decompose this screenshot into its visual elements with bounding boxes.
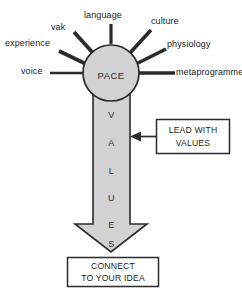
spoke-label-culture: culture [151,17,179,26]
pace-hub-label: PACE [98,70,125,81]
diagram-canvas: PACE V A L U E S LEAD WITH VALUES CONNEC… [0,0,242,290]
callout-line-1: LEAD WITH [169,125,218,135]
values-letter-v: V [108,110,114,120]
values-letter-a: A [108,138,114,148]
spoke-label-experience: experience [5,39,50,48]
outcome-line-2: TO YOUR IDEA [81,273,145,283]
callout-line-2: VALUES [176,138,211,148]
spoke-line-experience [59,51,86,64]
values-letter-e: E [108,220,114,230]
outcome-line-1: CONNECT [91,261,135,271]
spoke-label-vak: vak [51,23,65,32]
values-letter-u: U [108,193,115,203]
callout-arrow-left-icon [130,132,141,142]
values-letter-l: L [109,166,114,176]
spoke-label-physiology: physiology [167,40,211,49]
callout-connector [130,132,156,142]
spoke-label-language: language [84,11,122,20]
values-letter-s: S [108,239,114,249]
spoke-line-physiology [136,49,166,64]
spoke-line-culture [129,30,151,54]
spoke-label-metaprogrammes: metaprogrammes [176,68,242,77]
spoke-label-voice: voice [21,67,43,76]
spoke-line-vak [74,32,93,53]
